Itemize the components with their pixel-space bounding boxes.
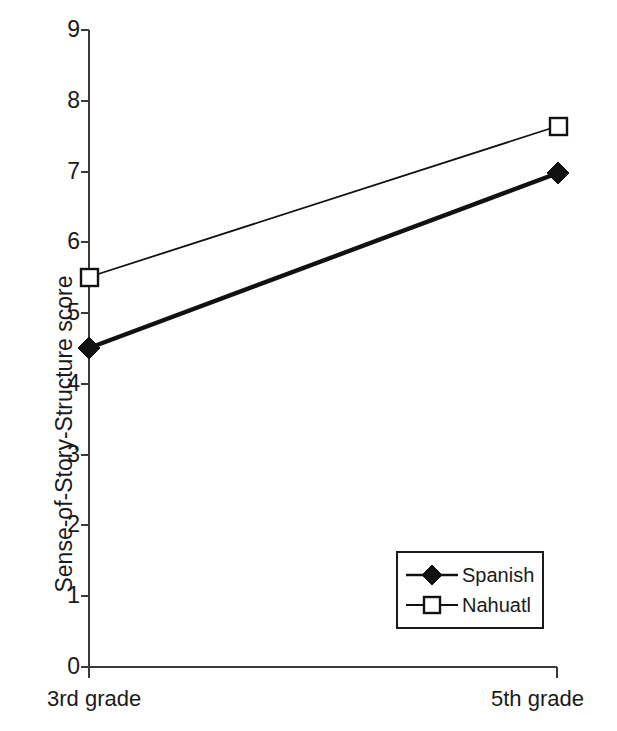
- legend-entry-nahuatl: Nahuatl: [398, 590, 542, 620]
- y-tick-label-text: 7: [52, 160, 80, 183]
- series-spanish: [78, 162, 569, 359]
- y-tick-label: 6: [52, 230, 80, 253]
- series-nahuatl-marker: [81, 269, 98, 286]
- legend-label-spanish: Spanish: [462, 563, 534, 587]
- y-tick-label-text: 0: [52, 655, 80, 678]
- series-spanish-line: [89, 173, 558, 348]
- series-spanish-marker: [78, 337, 100, 359]
- legend-label-nahuatl: Nahuatl: [462, 593, 531, 617]
- y-tick-label: 0: [52, 655, 80, 678]
- y-tick-label-text: 8: [52, 89, 80, 112]
- y-tick-label: 9: [52, 18, 80, 41]
- x-tick-label-5th-grade: 5th grade: [491, 686, 584, 712]
- y-tick-label: 7: [52, 160, 80, 183]
- legend-entry-spanish: Spanish: [398, 560, 542, 590]
- y-tick-label-text: 9: [52, 18, 80, 41]
- legend: Spanish Nahuatl: [396, 551, 544, 629]
- x-tick-label-3rd-grade: 3rd grade: [47, 686, 141, 712]
- filled-diamond-icon: [406, 560, 458, 590]
- series-spanish-marker: [547, 162, 569, 184]
- open-square-icon: [406, 590, 458, 620]
- y-axis-title: Sense-of-Story-Structure score: [49, 259, 79, 609]
- chart-figure: 9 8 7 6 5 4 3 2 1 0 Sense-of-Story-Struc…: [0, 0, 617, 731]
- y-tick-label-text: 6: [52, 230, 80, 253]
- series-nahuatl-marker: [550, 118, 567, 135]
- y-tick-label: 8: [52, 89, 80, 112]
- x-axis-ticks: [89, 667, 557, 678]
